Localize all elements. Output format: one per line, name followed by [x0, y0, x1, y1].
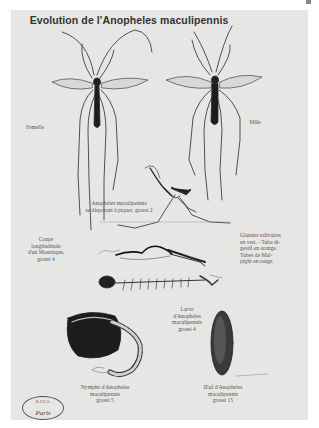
glands-caption-line5: pighi en rouge.	[240, 258, 302, 265]
section-caption-line4: grossi 4	[18, 256, 74, 263]
biting-mosquito-drawing	[100, 166, 230, 228]
biting-caption-line2: se disposant à piquer, grossi 2	[64, 207, 174, 214]
section-caption-line1: Coupe	[18, 236, 74, 243]
stamp-city-text: Paris	[23, 409, 63, 417]
egg-caption: Œuf d'Anopheles maculipennis grossi 15	[190, 384, 256, 404]
section-caption: Coupe longitudinale d'un Moustique, gros…	[18, 236, 74, 262]
egg-caption-line2: maculipennis	[190, 391, 256, 398]
larva-caption-line3: maculipennis	[162, 319, 212, 326]
glands-caption-line4: Tubes de Mal-	[240, 252, 302, 259]
stamp-top-text: B.I.U.S.	[23, 399, 63, 404]
glands-caption: Glandes salivaires en vert. - Tube di- g…	[240, 232, 302, 265]
longitudinal-section-drawing	[98, 246, 205, 266]
egg-drawing	[211, 311, 268, 376]
nymph-caption-line1: Nymphe d'Anopheles	[70, 384, 140, 391]
nymph-caption: Nymphe d'Anopheles maculipennis grossi 5	[70, 384, 140, 404]
larva-caption-line2: d'Anopheles	[162, 313, 212, 320]
larva-caption-line4: grossi 4	[162, 326, 212, 333]
egg-caption-line3: grossi 15	[190, 397, 256, 404]
glands-caption-line3: gestif en orange.	[240, 245, 302, 252]
egg-caption-line1: Œuf d'Anopheles	[190, 384, 256, 391]
male-mosquito-drawing	[166, 26, 262, 200]
glands-caption-line1: Glandes salivaires	[240, 232, 302, 239]
nymph-drawing	[67, 312, 140, 374]
library-stamp: B.I.U.S. Paris	[22, 396, 64, 420]
larva-caption-line1: Larve	[162, 306, 212, 313]
larva-caption: Larve d'Anopheles maculipennis grossi 4	[162, 306, 212, 332]
female-label: Femelle	[20, 124, 50, 131]
male-label: Mâle	[240, 119, 270, 126]
mosquito-illustrations	[0, 0, 319, 428]
section-caption-line3: d'un Moustique,	[18, 249, 74, 256]
larva-drawing	[99, 275, 222, 290]
nymph-caption-line3: grossi 5	[70, 397, 140, 404]
glands-caption-line2: en vert. - Tube di-	[240, 239, 302, 246]
biting-caption: Anopheles maculipennis se disposant à pi…	[64, 200, 174, 213]
biting-caption-line1: Anopheles maculipennis	[64, 200, 174, 207]
nymph-caption-line2: maculipennis	[70, 391, 140, 398]
section-caption-line2: longitudinale	[18, 243, 74, 250]
